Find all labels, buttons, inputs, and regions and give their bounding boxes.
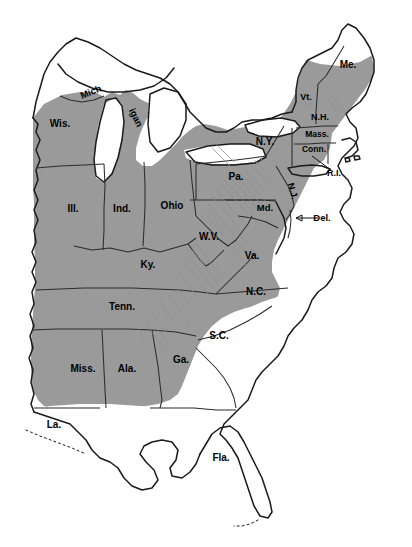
state-label-vermont: Vt. xyxy=(300,92,312,102)
state-label-pennsylvania: Pa. xyxy=(228,171,243,182)
state-label-wisconsin: Wis. xyxy=(50,118,71,129)
state-label-georgia: Ga. xyxy=(173,354,189,365)
state-label-kentucky: Ky. xyxy=(141,259,156,270)
state-label-maine: Me. xyxy=(340,59,357,70)
state-label-indiana: Ind. xyxy=(113,203,131,214)
state-label-massachusetts: Mass. xyxy=(305,129,329,139)
state-label-rhode-island: R.I. xyxy=(327,168,341,178)
state-label-florida: Fla. xyxy=(212,452,229,463)
state-label-illinois: Ill. xyxy=(67,203,78,214)
map-container: Wis.MichiganIll.Ind.OhioKy.Tenn.Miss.Ala… xyxy=(0,0,412,547)
state-label-tennessee: Tenn. xyxy=(109,301,135,312)
state-label-west-virginia: W.V. xyxy=(199,231,219,242)
state-label-new-hampshire: N.H. xyxy=(311,112,329,122)
state-label-north-carolina: N.C. xyxy=(246,286,266,297)
state-label-delaware: Del. xyxy=(313,212,330,223)
state-label-virginia: Va. xyxy=(245,250,260,261)
state-label-connecticut: Conn. xyxy=(302,144,326,154)
state-label-maryland: Md. xyxy=(257,202,273,213)
state-label-louisiana: La. xyxy=(47,419,62,430)
state-label-south-carolina: S.C. xyxy=(209,330,229,341)
state-label-mississippi: Miss. xyxy=(70,363,95,374)
state-label-ohio: Ohio xyxy=(161,200,184,211)
state-label-alabama: Ala. xyxy=(118,363,137,374)
eastern-us-map: Wis.MichiganIll.Ind.OhioKy.Tenn.Miss.Ala… xyxy=(0,0,412,547)
state-label-new-york: N.Y. xyxy=(256,136,275,147)
